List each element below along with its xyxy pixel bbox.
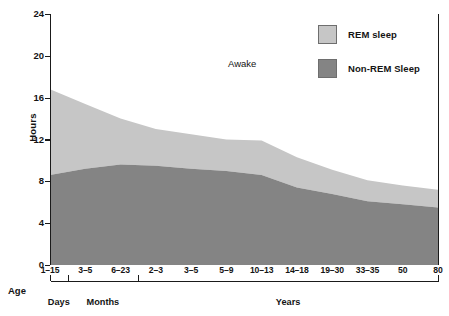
non-rem-sleep-area (50, 165, 438, 265)
x-tick-label: 6–23 (111, 265, 130, 275)
x-tick-label: 3–5 (78, 265, 92, 275)
x-axis-tick-labels: 1–153–56–232–33–55–910–1314–1819–3033–35… (0, 265, 449, 281)
x-tick-label: 1–15 (41, 265, 60, 275)
group-label: Days (48, 297, 70, 307)
x-tick-label: 10–13 (250, 265, 273, 275)
area-layers (50, 89, 438, 265)
legend-label-rem-sleep: REM sleep (348, 29, 397, 40)
y-axis-ticks (45, 15, 50, 266)
x-axis-group-labels: DaysMonthsYears (0, 297, 449, 313)
legend-item-rem-sleep: REM sleep (318, 24, 446, 44)
x-axis-title: Age (8, 285, 26, 296)
legend-swatch-rem-sleep (318, 25, 337, 44)
x-tick-label: 5–9 (219, 265, 233, 275)
x-tick-label: 80 (433, 265, 442, 275)
group-label: Years (276, 297, 301, 307)
x-tick-label: 33–35 (356, 265, 379, 275)
x-tick-label: 3–5 (184, 265, 198, 275)
awake-annotation: Awake (228, 58, 256, 69)
x-tick-label: 19–30 (320, 265, 343, 275)
group-label: Months (87, 297, 120, 307)
x-tick-label: 2–3 (149, 265, 163, 275)
sleep-stages-chart: Hours 24201612840 Awake REM sleep Non-RE… (0, 0, 449, 316)
legend: REM sleep Non-REM Sleep (318, 24, 446, 92)
legend-swatch-non-rem-sleep (318, 59, 337, 78)
x-tick-label: 50 (398, 265, 407, 275)
legend-item-non-rem-sleep: Non-REM Sleep (318, 58, 446, 78)
x-tick-label: 14–18 (285, 265, 308, 275)
legend-label-non-rem-sleep: Non-REM Sleep (348, 63, 420, 74)
